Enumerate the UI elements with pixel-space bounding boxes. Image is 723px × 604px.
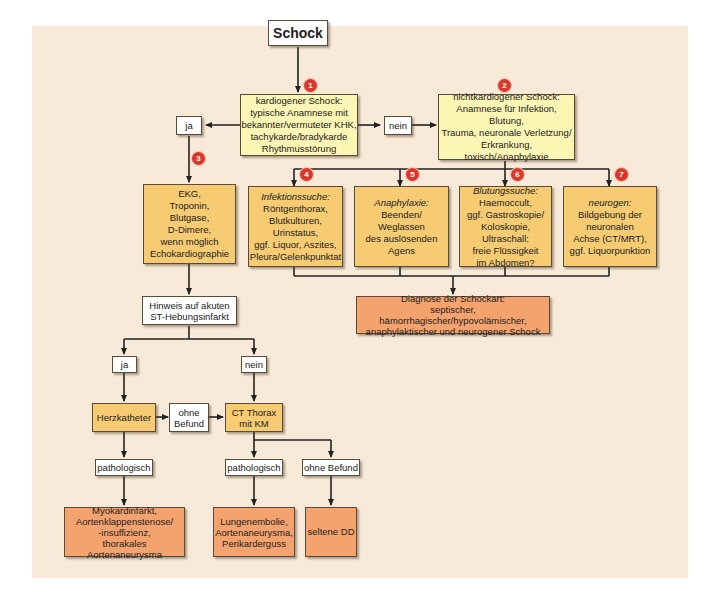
ct-no-finding-box: ohne Befund bbox=[302, 459, 360, 476]
result-catheter-box: Myokardinfarkt, Aortenklappenstenose/ -i… bbox=[64, 507, 185, 557]
start-node-schock: Schock bbox=[268, 20, 328, 46]
step-badge-7: 7 bbox=[615, 168, 628, 181]
ct-thorax-box: CT Thorax mit KM bbox=[225, 403, 283, 432]
no-label-box: nein bbox=[384, 116, 412, 135]
step-badge-5: 5 bbox=[406, 168, 419, 181]
step-badge-4: 4 bbox=[300, 168, 313, 181]
shock-type-diagnosis-box: Diagnose der Schockart: septischer, hämo… bbox=[356, 296, 550, 334]
cardiogenic-shock-box: kardiogener Schock: typische Anamnese mi… bbox=[240, 94, 358, 156]
catheter-pathologic-box: pathologisch bbox=[95, 459, 153, 476]
neurogenic-box: neurogen: Bildgebung der neuronalen Achs… bbox=[563, 186, 657, 267]
ct-pathologic-box: pathologisch bbox=[225, 459, 283, 476]
stemi-no-box: nein bbox=[241, 356, 267, 373]
noncardiogenic-shock-box: nichtkardiogener Schock: Anamnese für In… bbox=[438, 94, 575, 160]
yes-label-box: ja bbox=[176, 116, 202, 135]
step-badge-1: 1 bbox=[304, 79, 317, 92]
catheter-no-finding-box: ohne Befund bbox=[169, 403, 209, 432]
anaphylaxis-box: Anaphylaxie: Beenden/ Weglassen des ausl… bbox=[354, 186, 449, 267]
step-badge-3: 3 bbox=[192, 152, 205, 165]
start-label: Schock bbox=[273, 27, 323, 39]
step-badge-6: 6 bbox=[511, 168, 524, 181]
cardiac-diagnostics-box: EKG, Troponin, Blutgase, D-Dimere, wenn … bbox=[143, 184, 236, 264]
result-ct-box: Lungenembolie, Aortenaneurysma, Perikard… bbox=[213, 507, 295, 557]
infection-search-box: Infektionssuche: Röntgenthorax, Blutkult… bbox=[248, 186, 343, 267]
stemi-question-box: Hinweis auf akuten ST-Hebungsinfarkt bbox=[142, 296, 237, 325]
stemi-yes-box: ja bbox=[112, 356, 137, 373]
cardiac-catheter-box: Herzkatheter bbox=[92, 403, 156, 432]
bleeding-search-box: Blutungssuche: Haemoccult, ggf. Gastrosk… bbox=[459, 186, 552, 267]
result-rare-dd-box: seltene DD bbox=[305, 507, 357, 557]
